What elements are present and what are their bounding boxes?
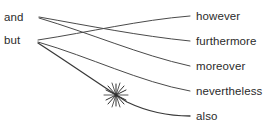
node-label-furthermore[interactable]: furthermore — [196, 35, 257, 47]
link-diagram: and but however furthermore moreover nev… — [0, 0, 263, 131]
edge-but-also — [38, 43, 190, 116]
edge-and-furthermore — [39, 17, 190, 41]
node-label-but[interactable]: but — [4, 34, 20, 46]
node-label-also[interactable]: also — [196, 110, 218, 122]
node-label-nevertheless[interactable]: nevertheless — [196, 85, 262, 97]
node-label-moreover[interactable]: moreover — [196, 60, 245, 72]
node-label-and[interactable]: and — [4, 11, 24, 23]
burst-marker-icon — [104, 83, 128, 107]
edge-but-however — [38, 16, 190, 40]
node-label-however[interactable]: however — [196, 10, 240, 22]
edge-but-nevertheless — [38, 42, 190, 91]
